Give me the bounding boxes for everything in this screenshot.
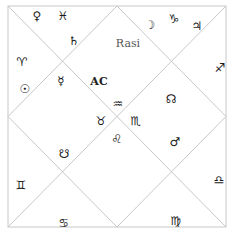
jupiter-icon: ♃ xyxy=(192,20,203,32)
capricorn-icon: ♑ xyxy=(169,13,180,25)
virgo-icon: ♍ xyxy=(171,215,182,227)
chart-title: Rasi xyxy=(116,38,140,49)
moon-icon: ☽ xyxy=(145,19,156,31)
cancer-icon: ♋ xyxy=(59,217,70,229)
libra-icon: ♎ xyxy=(214,174,225,186)
south-node-icon: ☋ xyxy=(59,148,70,160)
taurus-icon: ♉ xyxy=(96,115,107,127)
sun-icon: ☉ xyxy=(20,83,31,95)
saturn-icon: ♄ xyxy=(69,35,80,47)
aquarius-icon: ♒ xyxy=(113,98,124,110)
mercury-icon: ☿ xyxy=(57,75,64,87)
sagittarius-icon: ♐ xyxy=(215,62,226,74)
venus-icon: ♀ xyxy=(33,10,42,22)
gemini-icon: ♊ xyxy=(16,179,27,191)
aries-icon: ♈ xyxy=(17,56,28,68)
pisces-icon: ♓ xyxy=(58,10,69,22)
mars-icon: ♂ xyxy=(170,136,181,148)
leo-icon: ♌ xyxy=(112,133,123,145)
scorpio-icon: ♏ xyxy=(131,115,142,127)
ascendant-label: AC xyxy=(90,76,107,87)
north-node-icon: ☊ xyxy=(166,93,177,105)
